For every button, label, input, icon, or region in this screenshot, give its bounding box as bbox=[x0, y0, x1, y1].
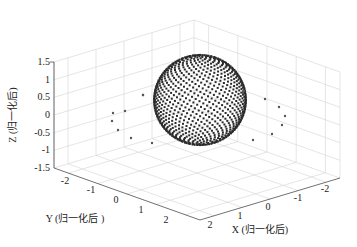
x-axis-label: X (归一化后) bbox=[232, 223, 288, 236]
z-tick: 0.5 bbox=[38, 91, 51, 102]
z-tick: 1.5 bbox=[38, 56, 51, 67]
z-tick: -1.5 bbox=[34, 162, 50, 173]
sphere-points bbox=[153, 54, 247, 146]
grid-lines bbox=[54, 20, 340, 216]
y-tick: 1 bbox=[139, 204, 144, 215]
y-tick: 0 bbox=[114, 194, 119, 205]
z-tick: 0 bbox=[45, 109, 50, 120]
z-axis-label: Z (归一化后) bbox=[6, 87, 19, 142]
x-tick: 2 bbox=[208, 219, 213, 230]
z-tick: 1 bbox=[45, 74, 50, 85]
y-axis-label: Y (归一化后 ) bbox=[46, 212, 105, 225]
z-tick: -1 bbox=[42, 144, 50, 155]
y-tick: -2 bbox=[61, 175, 69, 186]
y-tick: -1 bbox=[87, 184, 95, 195]
x-tick: 0 bbox=[266, 201, 271, 212]
outlier-points bbox=[111, 90, 286, 144]
z-axis-ticks: 1.5 1 0.5 0 -0.5 -1 -1.5 bbox=[34, 56, 50, 173]
x-tick: 1 bbox=[238, 210, 243, 221]
z-tick: -0.5 bbox=[34, 127, 50, 138]
x-tick: -2 bbox=[321, 183, 329, 194]
y-tick: 2 bbox=[164, 214, 169, 225]
x-tick: -1 bbox=[294, 192, 302, 203]
3d-scatter-plot: 1.5 1 0.5 0 -0.5 -1 -1.5 -2 -1 0 1 2 2 1… bbox=[0, 0, 357, 247]
